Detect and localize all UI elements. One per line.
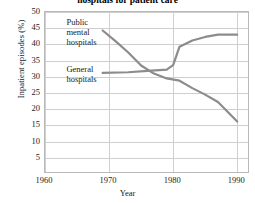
y-tick-label: 50 [4,6,40,16]
y-tick-label: 10 [4,136,40,146]
y-tick-label: 15 [4,119,40,129]
series-annotation-line: hospitals [66,37,96,47]
x-tick-label: 1990 [216,175,255,185]
series-annotation-line: hospitals [66,74,96,84]
chart-root: hospitals for patient care Inpatient epi… [0,0,255,203]
y-tick-label: 5 [4,152,40,162]
y-tick-label: 30 [4,71,40,81]
series-annotation: Publicmentalhospitals [66,17,96,47]
y-tick-label: 35 [4,55,40,65]
y-tick-label: 20 [4,103,40,113]
y-tick-label: 45 [4,22,40,32]
series-line [103,35,238,73]
series-annotation: Generalhospitals [66,64,96,84]
x-tick-label: 1970 [88,175,128,185]
x-tick-label: 1980 [152,175,192,185]
series-annotation-line: General [66,64,96,74]
series-annotation-line: mental [66,27,96,37]
x-tick-label: 1960 [24,175,64,185]
y-tick-label: 25 [4,87,40,97]
series-annotation-line: Public [66,17,96,27]
y-tick-label: 40 [4,38,40,48]
series-line [103,30,238,121]
